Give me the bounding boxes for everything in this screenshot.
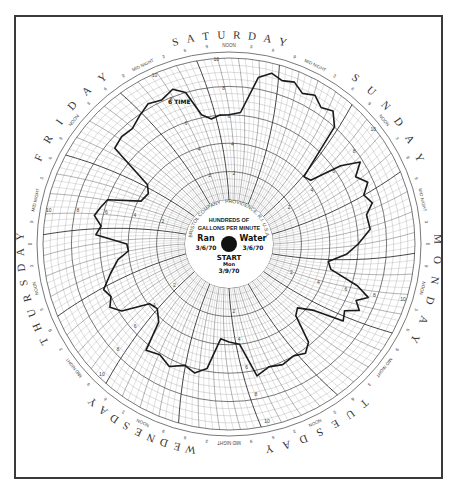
- hour-label: 3: [161, 54, 165, 60]
- ring-value-label: 4: [134, 212, 137, 218]
- hour-label: 6: [405, 156, 411, 161]
- hour-label: 9: [205, 44, 209, 49]
- chart-hub: BRISTOL COMPANY · PROVIDENCE, R.I. U.S.A…: [185, 198, 273, 288]
- hour-label: 3: [366, 382, 372, 388]
- day-letter: A: [403, 133, 417, 146]
- ring-value-label: 2: [162, 218, 165, 224]
- day-letter: D: [248, 29, 257, 42]
- hour-label: MID NIGHT: [418, 188, 428, 212]
- ring-value-label: 10: [99, 371, 105, 377]
- day-letter: S: [171, 35, 180, 48]
- day-letter: D: [158, 436, 169, 450]
- day-letter: D: [65, 98, 79, 112]
- hour-label: 3: [205, 439, 209, 444]
- hour-label: 9: [39, 307, 45, 311]
- hour-label: 9: [367, 101, 373, 107]
- ring-value-label: 2: [173, 282, 176, 288]
- hour-label: 9: [58, 136, 64, 141]
- hour-label: NOON: [419, 281, 427, 295]
- day-letter: A: [96, 404, 110, 418]
- hour-label: 3: [394, 136, 400, 141]
- ring-value-label: 2: [288, 204, 291, 210]
- ring-value-label: 10: [370, 126, 376, 132]
- ring-value-label: 4: [311, 187, 314, 193]
- hour-label: MID NIGHT: [131, 58, 155, 73]
- hour-label: 9: [86, 381, 92, 387]
- unit-label-line2: GALLONS PER MINUTE: [198, 225, 261, 231]
- handwritten-top-left-date: 3/6/70: [195, 244, 216, 251]
- day-letter: A: [417, 314, 431, 326]
- ring-value-label: 6: [345, 286, 348, 292]
- ring-value-label: 10: [264, 418, 270, 424]
- day-letter: D: [14, 263, 27, 272]
- hour-label: 9: [332, 409, 337, 415]
- day-letter: O: [432, 255, 445, 264]
- handwritten-top-right-date: 3/6/70: [242, 244, 263, 251]
- ring-value-label: 10: [46, 207, 52, 213]
- hour-label: 9: [121, 73, 126, 79]
- day-letter: N: [429, 275, 442, 285]
- day-letter: E: [172, 440, 182, 453]
- day-letter: N: [145, 431, 157, 445]
- hour-label: 6: [425, 243, 430, 246]
- day-letter: M: [432, 234, 444, 244]
- ring-value-label: 10: [152, 72, 158, 78]
- hour-label: 6: [103, 86, 108, 92]
- ring-value-label: 8: [353, 148, 356, 154]
- hour-label: 6: [183, 48, 187, 54]
- hour-label: 3: [29, 264, 34, 268]
- day-letter: A: [281, 438, 292, 452]
- circular-chart: 1086421086421086421086421086421086421086…: [0, 0, 459, 489]
- day-letter: D: [424, 295, 438, 306]
- day-letter: U: [344, 408, 357, 422]
- hour-label: 6: [47, 155, 53, 160]
- day-letter: A: [185, 32, 195, 45]
- ring-value-label: 8: [373, 292, 376, 298]
- day-letter: T: [358, 397, 371, 411]
- hour-label: NOON: [222, 43, 236, 48]
- day-letter: Y: [13, 232, 25, 240]
- day-letter: T: [37, 335, 51, 347]
- ring-value-label: 4: [231, 141, 234, 147]
- hour-label: MID NIGHT: [30, 188, 40, 212]
- day-letter: S: [314, 426, 325, 439]
- handwritten-top-left: Ran: [197, 234, 215, 243]
- ring-value-label: 8: [222, 85, 225, 91]
- day-letter: R: [41, 132, 55, 145]
- handwritten-top-right: Water: [239, 234, 266, 243]
- day-letter: Y: [264, 443, 274, 456]
- day-letter: U: [24, 307, 38, 319]
- hour-label: MID NIGHT: [375, 357, 394, 379]
- hour-label: 3: [58, 347, 64, 352]
- ring-value-label: 6: [245, 364, 248, 370]
- hour-label: 6: [350, 86, 355, 92]
- hour-label: 9: [29, 220, 34, 224]
- handwritten-start-date: 3/9/70: [218, 267, 239, 274]
- ring-value-label: 4: [317, 279, 320, 285]
- day-letter: A: [263, 32, 273, 45]
- day-letter: Y: [413, 151, 427, 163]
- unit-label-line1: HUNDREDS OF: [209, 217, 250, 223]
- ring-value-label: 6: [105, 209, 108, 215]
- ring-value-label: 4: [238, 336, 241, 342]
- ring-value-label: 2: [209, 172, 212, 178]
- hour-label: 3: [292, 429, 296, 435]
- day-letter: Y: [408, 333, 422, 346]
- ring-value-label: 2: [232, 308, 235, 314]
- day-letter: D: [392, 115, 406, 128]
- hour-label: 6: [47, 327, 53, 332]
- day-letter: T: [202, 29, 210, 42]
- hour-label: 6: [271, 435, 275, 441]
- hour-label: 3: [121, 409, 126, 415]
- hour-label: 9: [293, 54, 297, 60]
- ring-value-label: 8: [254, 391, 257, 397]
- hour-label: 9: [424, 265, 429, 269]
- hour-label: 6: [350, 396, 355, 402]
- hour-label: 3: [86, 101, 92, 107]
- hour-label: 9: [394, 347, 400, 352]
- day-letter: Y: [85, 395, 99, 409]
- ring-value-label: 2: [232, 170, 235, 176]
- hour-label: MID NIGHT: [64, 357, 83, 379]
- ring-value-label: 4: [197, 146, 200, 152]
- day-letter: A: [14, 248, 26, 256]
